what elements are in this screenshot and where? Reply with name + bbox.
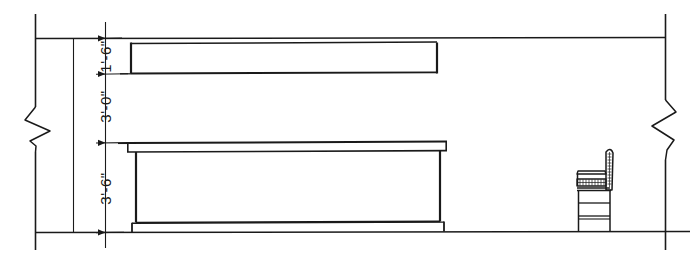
elevation-drawing-canvas: 1'-6" 3'-0" 3'-6" xyxy=(0,0,699,259)
dimension-arrowhead-countertop xyxy=(96,140,128,146)
ceiling-line xyxy=(35,38,665,39)
counter-toe-kick xyxy=(132,222,444,233)
dimension-label-backsplash-height: 3'-0" xyxy=(97,75,114,139)
right-break-line-icon xyxy=(652,100,676,160)
upper-cabinet xyxy=(120,42,437,74)
dimension-arrowhead-floor xyxy=(96,229,124,235)
chair xyxy=(577,149,613,231)
left-break-line-icon xyxy=(25,107,50,152)
counter-body xyxy=(136,151,440,223)
counter-top xyxy=(118,142,447,152)
floor-line xyxy=(35,232,690,233)
dimension-label-counter-height: 3'-6" xyxy=(97,156,114,222)
